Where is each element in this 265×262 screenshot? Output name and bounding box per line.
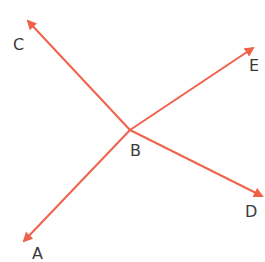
label-e: E — [249, 56, 259, 75]
ray-be — [130, 48, 253, 130]
geometry-diagram: C E B D A — [0, 0, 265, 262]
label-a: A — [32, 244, 43, 262]
ray-bc — [28, 21, 130, 130]
ray-ba — [24, 130, 130, 241]
label-b: B — [130, 141, 141, 160]
ray-bd — [130, 130, 262, 196]
label-d: D — [245, 202, 257, 221]
label-c: C — [13, 35, 24, 54]
